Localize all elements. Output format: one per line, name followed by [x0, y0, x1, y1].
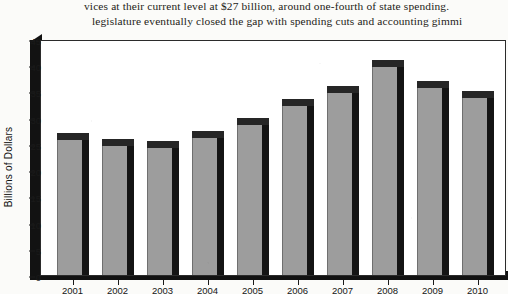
bar-face: [462, 98, 487, 275]
y-axis-tick-mark: [29, 277, 35, 278]
bar-side: [262, 125, 269, 275]
bar-2007: [327, 86, 352, 275]
page-body-text: vices at their current level at $27 bill…: [0, 0, 508, 30]
y-axis-tick-label: 30: [7, 114, 41, 125]
bar-top: [372, 60, 397, 67]
bar-face: [192, 138, 217, 275]
bar-top: [237, 118, 262, 125]
bar-top-cap: [487, 91, 494, 98]
bar-top-cap: [217, 131, 224, 138]
y-axis-tick-mark: [29, 67, 35, 68]
bar-2008: [372, 60, 397, 275]
bar-top-cap: [442, 81, 449, 88]
bar-top: [147, 141, 172, 148]
bar-top: [282, 99, 307, 106]
bar-face: [372, 67, 397, 275]
bar-2001: [57, 133, 82, 275]
body-text-line-2: legislature eventually closed the gap wi…: [92, 15, 462, 27]
y-axis-tick-mark: [29, 93, 35, 94]
bar-top: [417, 81, 442, 88]
bar-side: [307, 106, 314, 275]
x-axis-tick-label-2010: 2010: [467, 285, 488, 294]
bar-top-cap: [127, 139, 134, 146]
y-axis-tick-mark: [29, 41, 35, 42]
y-axis-tick-mark: [29, 145, 35, 146]
bar-chart: Billions of Dollars 051015202530354045 2…: [0, 32, 508, 294]
bar-top-cap: [352, 86, 359, 93]
bar-2005: [237, 118, 262, 275]
bar-face: [282, 106, 307, 275]
bar-face: [102, 146, 127, 275]
bar-side: [217, 138, 224, 275]
plot-area: Billions of Dollars 051015202530354045: [40, 40, 506, 276]
y-axis-tick-label: 45: [7, 36, 41, 47]
y-axis-tick-mark: [29, 198, 35, 199]
bar-side: [442, 88, 449, 275]
bar-top: [57, 133, 82, 140]
y-axis-tick-mark: [29, 224, 35, 225]
x-axis-tick-label-2004: 2004: [197, 285, 218, 294]
y-axis-tick-label: 5: [7, 245, 41, 256]
bar-side: [397, 67, 404, 275]
bar-2009: [417, 81, 442, 275]
bar-face: [237, 125, 262, 275]
bar-face: [147, 148, 172, 275]
y-axis-tick-mark: [29, 250, 35, 251]
y-axis-tick-label: 0: [7, 272, 41, 283]
body-text-line-1: vices at their current level at $27 bill…: [84, 0, 449, 12]
bar-face: [327, 93, 352, 275]
bar-2006: [282, 99, 307, 275]
x-axis-tick-label-2009: 2009: [422, 285, 443, 294]
y-axis-tick-label: 40: [7, 62, 41, 73]
y-axis-tick-label: 35: [7, 88, 41, 99]
bar-top: [192, 131, 217, 138]
bar-2002: [102, 139, 127, 275]
bar-top: [327, 86, 352, 93]
x-axis-tick-label-2001: 2001: [62, 285, 83, 294]
bar-face: [417, 88, 442, 275]
x-axis-tick-label-2003: 2003: [152, 285, 173, 294]
bar-side: [172, 148, 179, 275]
bar-2004: [192, 131, 217, 275]
bar-top-cap: [262, 118, 269, 125]
bar-side: [352, 93, 359, 275]
y-axis-tick-label: 15: [7, 193, 41, 204]
y-axis-tick-labels: 051015202530354045: [7, 41, 41, 275]
bar-side: [487, 98, 494, 275]
x-axis-tick-label-2008: 2008: [377, 285, 398, 294]
bar-2003: [147, 141, 172, 275]
bar-top: [462, 91, 487, 98]
bar-top-cap: [397, 60, 404, 67]
bar-2010: [462, 91, 487, 275]
y-axis-tick-label: 10: [7, 219, 41, 230]
bar-top-cap: [172, 141, 179, 148]
bar-top-cap: [82, 133, 89, 140]
y-axis-tick-label: 20: [7, 167, 41, 178]
x-axis-tick-label-2006: 2006: [287, 285, 308, 294]
y-axis-tick-mark: [29, 172, 35, 173]
bar-side: [127, 146, 134, 275]
y-axis-tick-mark: [29, 119, 35, 120]
x-axis-tick-label-2005: 2005: [242, 285, 263, 294]
y-axis-tick-label: 25: [7, 140, 41, 151]
x-axis-tick-label-2002: 2002: [107, 285, 128, 294]
x-axis-tick-label-2007: 2007: [332, 285, 353, 294]
bar-top: [102, 139, 127, 146]
bar-face: [57, 140, 82, 275]
bar-side: [82, 140, 89, 275]
bar-top-cap: [307, 99, 314, 106]
